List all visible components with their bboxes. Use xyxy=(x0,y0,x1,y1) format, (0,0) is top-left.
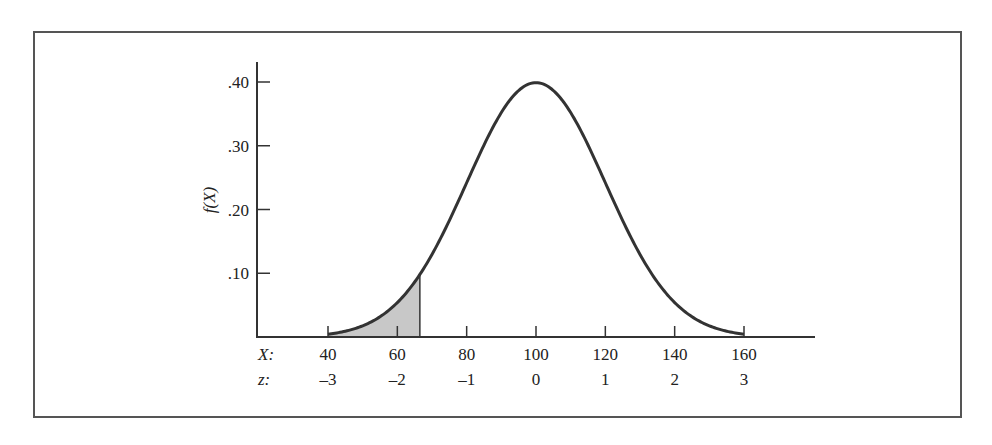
normal-distribution-chart: .10.20.30.4040–360–280–11000120114021603… xyxy=(0,0,992,445)
normal-curve xyxy=(328,83,744,335)
z-row-label: z: xyxy=(257,370,270,389)
x-row-label: X: xyxy=(257,345,274,364)
z-tick-label: –2 xyxy=(388,370,406,389)
y-tick-label: .30 xyxy=(228,137,249,156)
y-tick-label: .20 xyxy=(228,201,249,220)
shaded-area xyxy=(328,274,420,337)
y-axis-title: f(X) xyxy=(200,186,219,213)
y-tick-label: .40 xyxy=(228,73,249,92)
tick-labels: .10.20.30.4040–360–280–11000120114021603 xyxy=(228,73,757,389)
x-tick-label: 100 xyxy=(523,345,549,364)
chart-axes xyxy=(256,62,815,338)
z-tick-label: 1 xyxy=(601,370,610,389)
z-tick-label: 2 xyxy=(670,370,679,389)
z-tick-label: –3 xyxy=(319,370,337,389)
y-tick-label: .10 xyxy=(228,264,249,283)
z-tick-label: –1 xyxy=(457,370,475,389)
x-tick-label: 140 xyxy=(662,345,688,364)
x-tick-label: 160 xyxy=(731,345,757,364)
x-tick-label: 40 xyxy=(320,345,337,364)
x-tick-label: 80 xyxy=(458,345,475,364)
density-curve xyxy=(328,83,744,335)
z-tick-label: 0 xyxy=(532,370,541,389)
x-tick-label: 60 xyxy=(389,345,406,364)
shaded-left-tail xyxy=(328,274,420,337)
x-tick-label: 120 xyxy=(593,345,619,364)
z-tick-label: 3 xyxy=(740,370,749,389)
